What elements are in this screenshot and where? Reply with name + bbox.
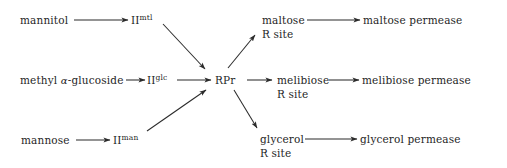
alpha-symbol: α <box>61 75 68 86</box>
node-ii-mtl-base: II <box>131 14 140 26</box>
edge-rpr-to-maltose-r-site <box>228 35 255 68</box>
node-ii-glc-superscript: glc <box>156 73 168 82</box>
node-mannitol-label: mannitol <box>20 14 68 26</box>
node-glycerol: glycerol <box>260 133 304 145</box>
node-melibiose-label: melibiose <box>277 74 329 86</box>
node-ii-mtl: IImtl <box>131 14 152 26</box>
node-glycerol-r-site-label: R site <box>260 147 291 159</box>
node-ii-glc: IIglc <box>147 74 167 86</box>
node-ii-man: IIman <box>113 134 138 146</box>
edge-ii-man-to-rpr <box>147 90 206 131</box>
node-melibiose-permease-label: melibiose permease <box>362 74 471 86</box>
node-melibiose-r-site: R site <box>277 88 308 100</box>
node-glycerol-permease-label: glycerol permease <box>360 133 461 145</box>
node-methyl-prefix: methyl <box>20 74 61 86</box>
node-rpr: RPr <box>215 74 235 86</box>
node-ii-mtl-superscript: mtl <box>140 13 153 22</box>
node-glycerol-permease: glycerol permease <box>360 133 461 145</box>
node-melibiose: melibiose <box>277 74 329 86</box>
edge-ii-mtl-to-rpr <box>163 24 205 69</box>
node-mannose-label: mannose <box>21 134 70 146</box>
pts-cascade-diagram: mannitol IImtl methyl α-glucoside IIglc … <box>0 0 507 168</box>
node-ii-man-superscript: man <box>122 133 139 142</box>
node-maltose-r-site-label: R site <box>262 28 293 40</box>
node-maltose-label: maltose <box>262 14 305 26</box>
node-maltose-r-site: R site <box>262 28 293 40</box>
node-glycerol-r-site: R site <box>260 147 291 159</box>
node-glycerol-label: glycerol <box>260 133 304 145</box>
node-mannose: mannose <box>21 134 70 146</box>
node-melibiose-r-site-label: R site <box>277 88 308 100</box>
node-glucoside-suffix: -glucoside <box>68 74 124 86</box>
edge-rpr-to-glycerol-r-site <box>234 90 257 128</box>
node-ii-glc-base: II <box>147 74 156 86</box>
node-melibiose-permease: melibiose permease <box>362 74 471 86</box>
node-methyl-alpha-glucoside: methyl α-glucoside <box>20 74 124 87</box>
node-maltose-permease-label: maltose permease <box>363 14 462 26</box>
node-rpr-label: RPr <box>215 74 235 86</box>
node-maltose-permease: maltose permease <box>363 14 462 26</box>
node-ii-man-base: II <box>113 134 122 146</box>
node-mannitol: mannitol <box>20 14 68 26</box>
node-maltose: maltose <box>262 14 305 26</box>
